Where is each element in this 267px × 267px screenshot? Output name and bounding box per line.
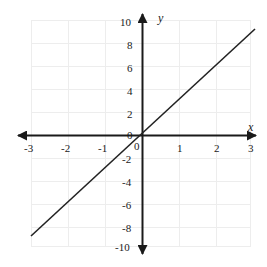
y-tick-label-neg4: -4 <box>122 177 131 188</box>
y-tick-label-neg10: -10 <box>115 242 130 253</box>
x-tick-label-neg1: -1 <box>98 143 107 154</box>
y-axis-name: y <box>158 12 163 24</box>
y-tick-label-neg8: -8 <box>122 223 131 234</box>
graph-canvas <box>0 0 267 267</box>
x-tick-label-2: 2 <box>214 143 220 154</box>
x-tick-label-3: 3 <box>248 143 254 154</box>
origin-label-y-axis: 0 <box>127 130 133 141</box>
x-tick-label-neg3: -3 <box>24 143 33 154</box>
coordinate-plane-figure: 10 8 6 4 2 0 0 -2 -4 -6 -8 -10 -3 -2 -1 … <box>0 0 267 267</box>
y-tick-label-neg6: -6 <box>122 200 131 211</box>
horizontal-gridlines <box>31 21 250 247</box>
x-tick-label-1: 1 <box>177 143 183 154</box>
y-tick-label-4: 4 <box>127 86 133 97</box>
x-tick-label-neg2: -2 <box>61 143 70 154</box>
y-tick-label-8: 8 <box>127 40 133 51</box>
y-tick-label-6: 6 <box>127 63 133 74</box>
y-tick-label-10: 10 <box>120 17 131 28</box>
x-axis-name: x <box>248 121 253 133</box>
y-tick-label-2: 2 <box>127 109 133 120</box>
origin-label-x-axis: 0 <box>134 141 140 152</box>
y-tick-label-neg2: -2 <box>122 154 131 165</box>
